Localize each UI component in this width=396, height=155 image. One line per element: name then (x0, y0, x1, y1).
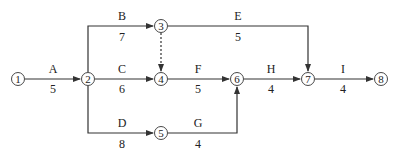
node-1: 1 (12, 73, 25, 86)
node-3: 3 (155, 20, 168, 33)
activity-h-name: H (267, 62, 276, 76)
node-2: 2 (82, 73, 95, 86)
node-4-label: 4 (158, 73, 164, 85)
node-5-label: 5 (158, 127, 164, 139)
activity-e-duration: 5 (235, 30, 241, 44)
activity-c-duration: 6 (119, 82, 125, 96)
activity-c-name: C (118, 62, 126, 76)
activity-f-duration: 5 (195, 82, 201, 96)
node-6: 6 (231, 73, 244, 86)
activity-g-arrow (168, 87, 237, 133)
activity-i-name: I (341, 62, 345, 76)
activity-i-duration: 4 (340, 82, 346, 96)
network-diagram: A 5 B 7 C 6 D 8 E 5 F 5 G 4 H 4 I 4 1 2 … (0, 0, 396, 155)
node-6-label: 6 (234, 73, 240, 85)
node-7-label: 7 (305, 73, 311, 85)
node-5: 5 (155, 127, 168, 140)
activity-a-name: A (49, 62, 58, 76)
activity-g-duration: 4 (195, 137, 201, 151)
node-8-label: 8 (378, 73, 384, 85)
node-2-label: 2 (85, 73, 91, 85)
activity-d-name: D (118, 116, 127, 130)
activity-a-duration: 5 (50, 82, 56, 96)
node-1-label: 1 (15, 73, 21, 85)
activity-g-name: G (194, 116, 203, 130)
activity-d-duration: 8 (119, 137, 125, 151)
node-7: 7 (302, 73, 315, 86)
activity-f-name: F (195, 62, 202, 76)
node-4: 4 (155, 73, 168, 86)
node-8: 8 (375, 73, 388, 86)
activity-e-name: E (234, 9, 241, 23)
activity-h-duration: 4 (268, 82, 274, 96)
node-3-label: 3 (158, 20, 164, 32)
activity-b-duration: 7 (119, 30, 125, 44)
activity-b-name: B (118, 9, 126, 23)
